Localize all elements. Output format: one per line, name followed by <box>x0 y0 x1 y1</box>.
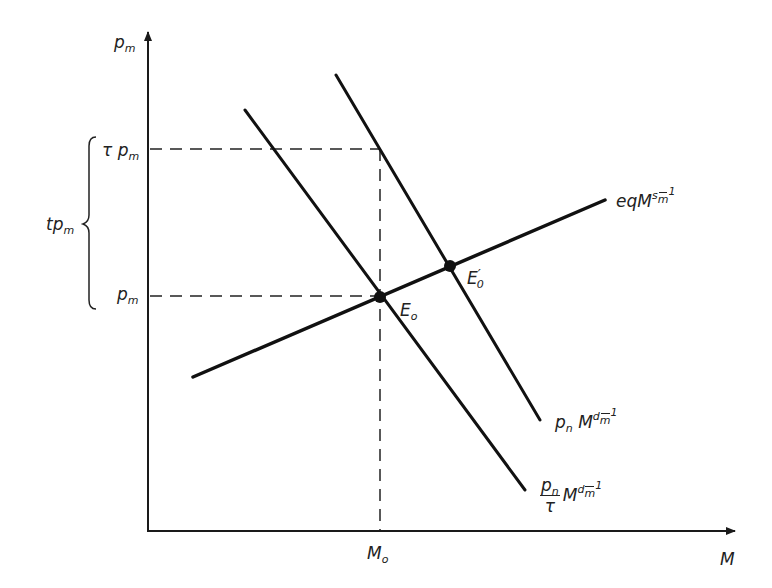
demand-pn-tau-label-sup-m: m <box>584 488 595 499</box>
supply-curve <box>193 200 605 377</box>
brace-label-main: tp <box>46 214 63 234</box>
x-tick-mo-main: M <box>367 543 382 563</box>
supply-label-sup-1: 1 <box>668 185 675 198</box>
y-tick-pm-main: p <box>117 284 128 304</box>
y-tick-tau-sub: m <box>128 150 139 163</box>
fraction-num-n: n <box>552 485 559 498</box>
demand-pn-tau-label-sup-1: 1 <box>595 479 602 492</box>
pn-over-tau-fraction: pn τ <box>540 477 560 515</box>
y-tick-tau-main: p <box>118 140 129 160</box>
x-axis-label: M <box>720 551 735 568</box>
point-label-e0: Eo <box>400 302 417 319</box>
supply-curve-label: eqMsm1 <box>616 193 675 210</box>
demand-pn-tau-label-main: M <box>563 485 578 505</box>
y-axis-label-main: p <box>114 32 125 52</box>
demand-pn-label-p: p <box>555 412 566 432</box>
point-label-e0-prime: E′0 <box>467 270 484 287</box>
y-tick-tau-prefix: τ <box>102 140 118 160</box>
x-tick-mo: Mo <box>367 545 388 562</box>
y-tick-pm-sub: m <box>128 294 139 307</box>
y-tick-pm: pm <box>117 286 139 303</box>
fraction-num-p: p <box>541 475 552 495</box>
brace-label-sub: m <box>63 224 74 237</box>
e0-main: E <box>400 300 411 320</box>
demand-pn-label: pn Mdm1 <box>555 414 618 431</box>
y-axis-label-sub: m <box>125 42 136 55</box>
x-axis-label-main: M <box>720 549 735 569</box>
e0p-sub: 0 <box>477 278 484 291</box>
supply-label-sup-m: m <box>658 194 669 205</box>
demand-pn-label-sup-d: d <box>593 410 600 423</box>
demand-pn-label-n: n <box>566 422 573 435</box>
brace-label-tpm: tpm <box>46 216 74 233</box>
demand-pn-label-main: M <box>578 412 593 432</box>
brace-icon <box>83 137 96 309</box>
fraction-den-tau: τ <box>540 496 560 515</box>
equilibrium-point-e0 <box>374 291 386 303</box>
demand-pn-label-sup-1: 1 <box>611 406 618 419</box>
supply-label-main: eqM <box>616 191 652 211</box>
y-tick-tau-pm: τ pm <box>102 142 139 159</box>
y-axis-label: pm <box>114 34 136 51</box>
diagram-canvas <box>0 0 772 588</box>
demand-curve-pn <box>336 75 540 420</box>
demand-pn-label-sup-m: m <box>600 415 611 426</box>
demand-pn-tau-label: pn τ Mdm1 <box>540 477 602 515</box>
equilibrium-point-e0-prime <box>444 260 456 272</box>
e0-sub: o <box>411 310 418 323</box>
x-tick-mo-sub: o <box>382 553 389 566</box>
